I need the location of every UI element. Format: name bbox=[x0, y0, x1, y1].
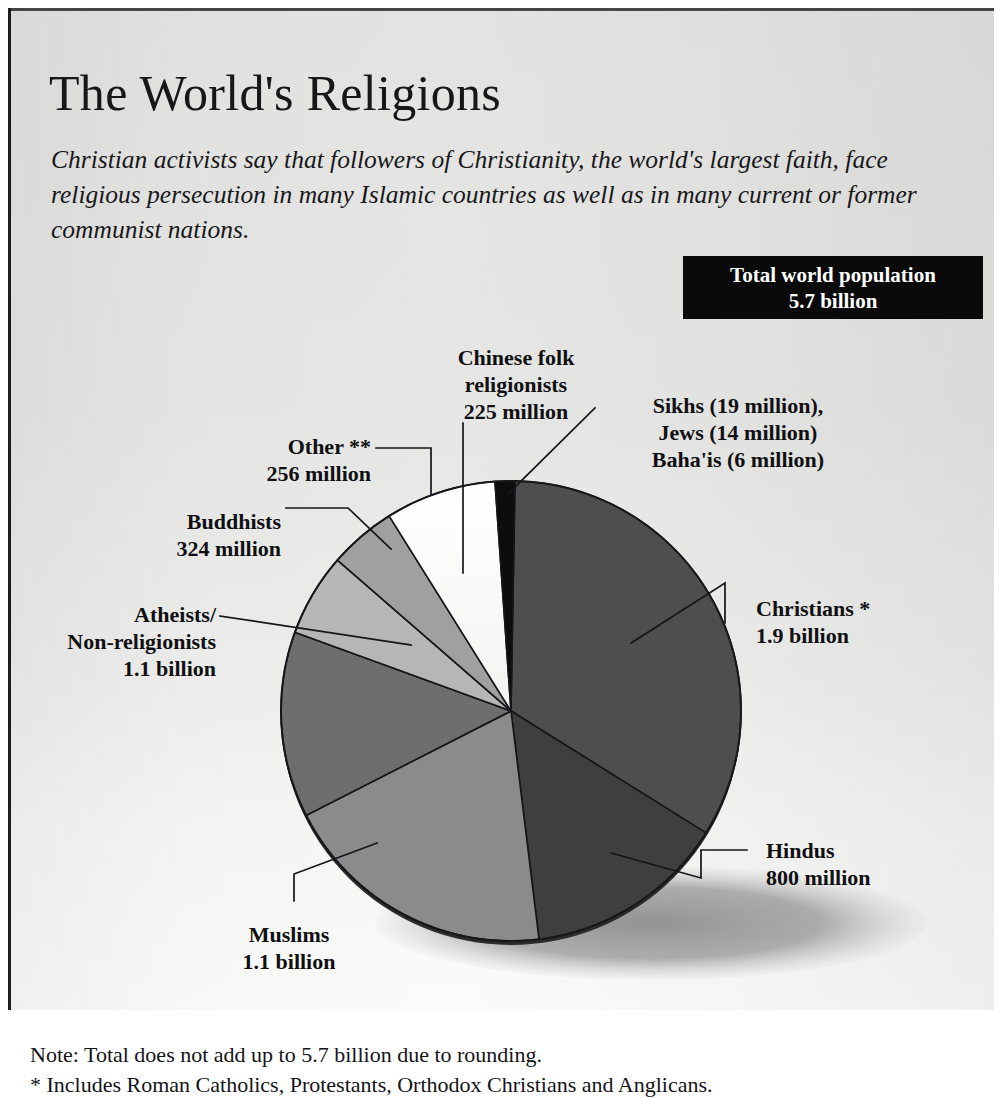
pie-slice-sikhs-jews-bahais[interactable] bbox=[495, 481, 515, 711]
leader-line-hindus bbox=[611, 850, 747, 878]
pie-slice-chinese-folk[interactable] bbox=[389, 482, 511, 711]
pie-slice-atheists-nonreligionists[interactable] bbox=[281, 632, 511, 815]
pie-edge-lip bbox=[281, 485, 741, 945]
label-hindus: Hindus 800 million bbox=[766, 837, 986, 891]
footnote-christians: * Includes Roman Catholics, Protestants,… bbox=[30, 1070, 980, 1098]
label-other: Other ** 256 million bbox=[156, 433, 371, 487]
label-christians: Christians * 1.9 billion bbox=[756, 595, 986, 649]
pie-slice-muslims[interactable] bbox=[306, 711, 539, 941]
infographic-panel: The World's Religions Christian activist… bbox=[8, 8, 994, 1010]
page-title: The World's Religions bbox=[49, 64, 501, 122]
leader-line-buddhists bbox=[286, 508, 391, 549]
footnote-rounding: Note: Total does not add up to 5.7 billi… bbox=[30, 1040, 980, 1070]
leader-line-atheists bbox=[220, 616, 411, 645]
total-population-line2: 5.7 billion bbox=[789, 288, 878, 314]
infographic-root: The World's Religions Christian activist… bbox=[0, 0, 1002, 1098]
leader-line-christians bbox=[631, 583, 725, 643]
label-atheists-nonreligionists: Atheists/ Non-religionists 1.1 billion bbox=[31, 601, 216, 682]
pie-outline bbox=[281, 481, 741, 941]
label-chinese-folk-religionists: Chinese folk religionists 225 million bbox=[431, 344, 601, 425]
footnotes: Note: Total does not add up to 5.7 billi… bbox=[30, 1040, 980, 1098]
pie-slice-hindus[interactable] bbox=[511, 711, 706, 939]
leader-line-muslims bbox=[294, 843, 377, 901]
deck-text: Christian activists say that followers o… bbox=[51, 142, 957, 247]
label-sikhs-jews-bahais: Sikhs (19 million), Jews (14 million) Ba… bbox=[598, 392, 878, 473]
pie-slice-christians[interactable] bbox=[511, 481, 741, 833]
label-buddhists: Buddhists 324 million bbox=[81, 508, 281, 562]
pie-slice-buddhists[interactable] bbox=[295, 560, 511, 711]
total-population-callout: Total world population 5.7 billion bbox=[683, 256, 983, 319]
pie-slice-other[interactable] bbox=[337, 516, 511, 711]
leader-line-other bbox=[376, 448, 431, 495]
label-muslims: Muslims 1.1 billion bbox=[184, 921, 394, 975]
total-population-line1: Total world population bbox=[730, 262, 936, 288]
pie-slices bbox=[281, 481, 741, 941]
